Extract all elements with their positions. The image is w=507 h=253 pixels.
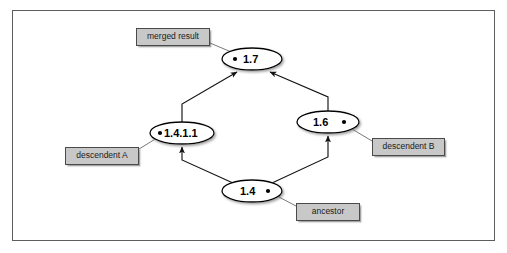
node-1-7-label: 1.7 (243, 53, 258, 65)
node-1-4-dot-icon (266, 189, 270, 193)
leader-line-descendent-b (352, 129, 372, 141)
leader-line-ancestor (277, 196, 296, 206)
callout-descendent-b-label: descendent B (383, 142, 435, 152)
edge-1-4-to-1-4-1-1 (182, 147, 233, 183)
edge-1-6-to-1-7 (270, 72, 328, 111)
node-1-6-label: 1.6 (313, 116, 328, 128)
node-1-6-dot-icon (342, 120, 346, 124)
node-1-7-dot-icon (233, 57, 237, 61)
node-1-4-label: 1.4 (240, 185, 255, 197)
diagram-canvas (0, 0, 507, 253)
edge-1-4-1-1-to-1-7 (182, 72, 237, 122)
edge-1-4-to-1-6 (272, 136, 328, 183)
callout-merged-result[interactable]: merged result (136, 28, 210, 46)
node-1-4-1-1-label: 1.4.1.1 (164, 127, 198, 139)
callout-descendent-a[interactable]: descendent A (65, 147, 139, 165)
callout-ancestor[interactable]: ancestor (296, 203, 360, 221)
node-1-4-1-1-dot-icon (158, 131, 162, 135)
leader-line-descendent-a (139, 138, 157, 149)
diagram-figure: 1.7 1.4.1.1 1.6 1.4 merged result descen… (0, 0, 507, 253)
callout-descendent-b[interactable]: descendent B (372, 138, 445, 156)
callout-descendent-a-label: descendent A (76, 151, 128, 161)
callout-ancestor-label: ancestor (312, 207, 345, 217)
callout-merged-result-label: merged result (147, 32, 199, 42)
